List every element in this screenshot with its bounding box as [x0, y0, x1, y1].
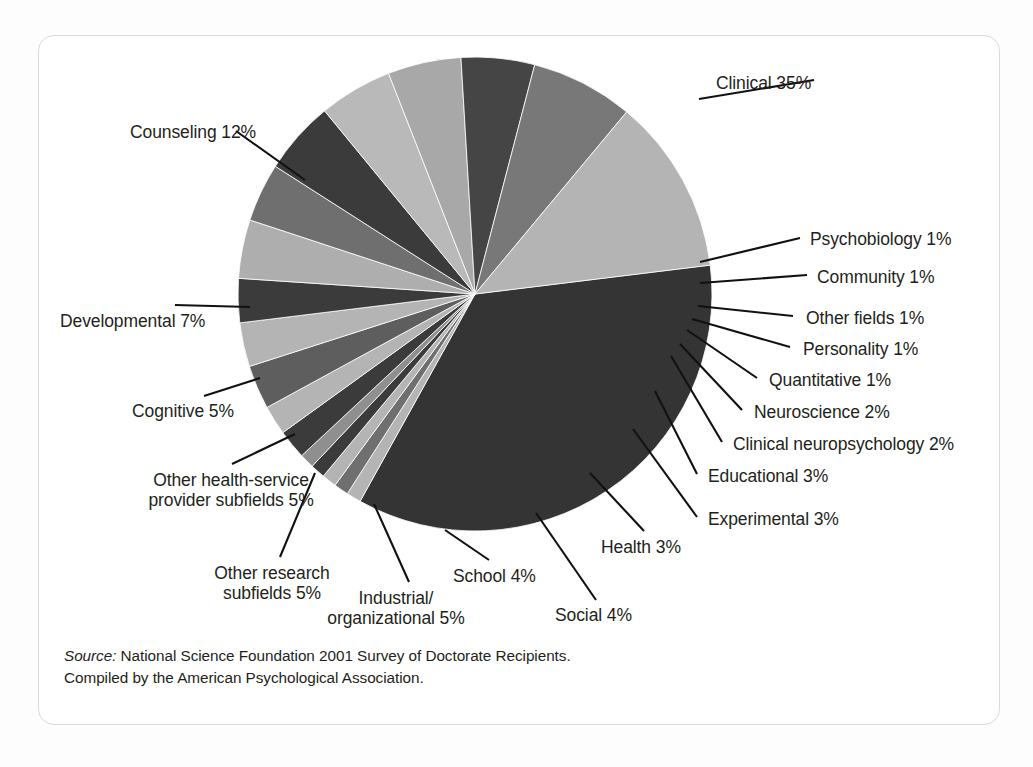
leader-line-cognitive — [204, 378, 260, 396]
leader-line-other-fields — [698, 306, 793, 316]
pie-label-other-health-service: Other health-serviceprovider subfields 5… — [131, 470, 331, 511]
pie-label-personality: Personality 1% — [803, 339, 918, 359]
pie-label-cognitive: Cognitive 5% — [132, 401, 234, 421]
pie-label-psychobiology: Psychobiology 1% — [810, 229, 951, 249]
pie-label-other-research-line2: subfields 5% — [223, 583, 321, 603]
pie-label-community: Community 1% — [817, 267, 934, 287]
pie-label-other-health-line1: Other health-service — [153, 470, 309, 490]
pie-label-clinical: Clinical 35% — [716, 73, 811, 93]
pie-label-developmental: Developmental 7% — [60, 311, 205, 331]
leader-line-social — [536, 513, 596, 600]
source-prefix: Source: — [64, 647, 116, 664]
pie-slice-group — [238, 57, 712, 531]
pie-label-social: Social 4% — [555, 605, 632, 625]
page-root: Clinical 35% Psychobiology 1% Community … — [0, 0, 1033, 767]
pie-label-other-research-subfields: Other researchsubfields 5% — [198, 563, 346, 604]
pie-label-industrial-line1: Industrial/ — [359, 588, 434, 608]
pie-label-health: Health 3% — [601, 537, 681, 557]
pie-label-clinical-neuropsychology: Clinical neuropsychology 2% — [733, 434, 954, 454]
source-line-2: Compiled by the American Psychological A… — [64, 669, 424, 686]
pie-label-educational: Educational 3% — [708, 466, 828, 486]
leader-line-school — [445, 530, 489, 560]
pie-label-other-health-line2: provider subfields 5% — [148, 490, 313, 510]
pie-label-experimental: Experimental 3% — [708, 509, 839, 529]
leader-line-experimental — [633, 429, 697, 517]
pie-label-quantitative: Quantitative 1% — [769, 370, 891, 390]
pie-label-other-fields: Other fields 1% — [806, 308, 924, 328]
pie-label-school: School 4% — [453, 566, 536, 586]
leader-line-psychobiology — [700, 238, 800, 262]
leader-line-community — [700, 275, 807, 283]
pie-label-neuroscience: Neuroscience 2% — [754, 402, 890, 422]
pie-label-counseling: Counseling 12% — [130, 122, 256, 142]
source-citation: Source: National Science Foundation 2001… — [64, 645, 571, 689]
leader-line-other-health-service — [232, 434, 295, 464]
pie-label-other-research-line1: Other research — [214, 563, 329, 583]
pie-label-industrial-line2: organizational 5% — [327, 608, 464, 628]
pie-chart-figure: Clinical 35% Psychobiology 1% Community … — [0, 0, 1033, 767]
source-line-1: National Science Foundation 2001 Survey … — [116, 647, 570, 664]
